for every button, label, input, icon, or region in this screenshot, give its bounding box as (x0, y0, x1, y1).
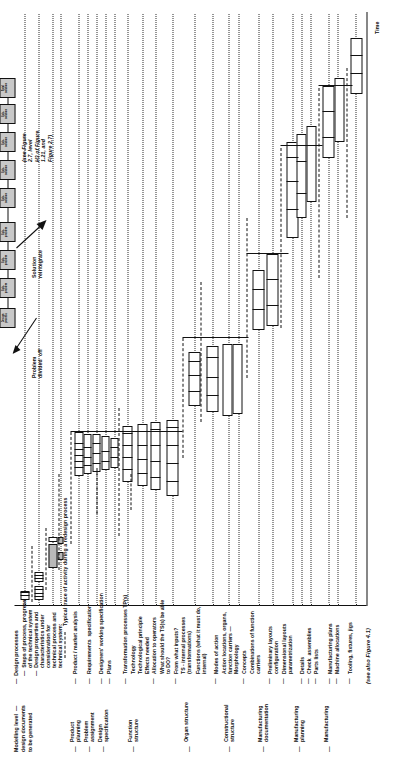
header-col2-line5: characteristics under (38, 614, 44, 668)
doc-plans: Plans (105, 660, 111, 674)
row-tick (101, 461, 109, 462)
row-guide (355, 14, 356, 606)
row-guide (142, 14, 143, 606)
activity-bar (334, 78, 344, 142)
level-dash: — (226, 746, 232, 752)
doc-manufacturing-plans: Manufacturing plans (326, 623, 332, 674)
row-tick (350, 55, 362, 56)
activity-trace (182, 338, 183, 458)
row-tick (122, 433, 132, 434)
activity-bar (48, 537, 57, 542)
doc-dash: — (72, 678, 78, 684)
row-tick (34, 589, 43, 590)
row-tick (74, 467, 83, 468)
time-axis (366, 12, 367, 606)
doc-product-market-analysis: Product / market analysis (71, 611, 77, 674)
legend-label: Typical trace of activity during a redes… (61, 498, 67, 626)
activity-trace (200, 282, 201, 422)
tree-node: Design process (0, 308, 15, 328)
row-tick (150, 429, 160, 430)
doc-modes-of-action: Modes of action (212, 635, 218, 674)
level-dash: — (100, 746, 106, 752)
cluster-connector (246, 253, 288, 254)
activity-bar (83, 434, 91, 474)
level-name-product-planning: Product planning (68, 720, 80, 742)
doc-tooling-fixtures-jigs: Tooling, fixtures, jigs (346, 622, 352, 674)
level-name-function-structure: Function structure (126, 719, 138, 742)
activity-trace (318, 88, 319, 278)
doc-dash: — (346, 678, 352, 684)
row-tick (166, 481, 178, 482)
doc-allocation-to-operators: Allocation to operators (150, 617, 156, 674)
activity-bar (322, 86, 334, 158)
cluster-connector (318, 85, 352, 86)
doc-dash: — (172, 678, 178, 684)
row-tick (322, 111, 334, 112)
doc-action-locations-organs: Action locations, organs, function carri… (220, 612, 238, 674)
doc-dash: — (86, 678, 92, 684)
activity-trace (45, 528, 46, 590)
row-tick (286, 209, 298, 210)
row-tick (252, 289, 264, 290)
row-guide (24, 14, 25, 606)
doc-technology: Technology (129, 645, 135, 674)
tree-node: Sub- problem (0, 222, 15, 242)
header-col1-line2: design documents (19, 705, 25, 752)
row-tick (206, 395, 218, 396)
row-tick (34, 593, 43, 594)
level-name-design-specification: Design specification (96, 710, 108, 742)
doc-combinations-of-function-carriers: Combinations of function carriers (248, 611, 260, 674)
activity-trace (96, 468, 97, 514)
activity-trace (280, 148, 281, 328)
level-dash: — (260, 746, 266, 752)
doc-dash: — (326, 678, 332, 684)
row-tick (350, 73, 362, 74)
row-guide (301, 14, 302, 606)
row-tick (206, 357, 218, 358)
row-tick (166, 463, 178, 464)
tree-node: Sub- solution (0, 188, 15, 208)
tree-node: Sub- solution (0, 104, 15, 124)
row-tick (137, 459, 147, 460)
doc-machine-allocations: Machine allocations (333, 625, 339, 674)
row-tick (110, 447, 118, 448)
tree-node: Sub- solution (0, 160, 15, 180)
activity-bar (137, 424, 147, 486)
tree-node: Sub- problem (0, 278, 15, 298)
row-guide (78, 14, 79, 606)
level-name-constructional-structure: Constructional structure (222, 705, 234, 742)
row-tick (188, 361, 200, 362)
doc-preliminary-layouts: Preliminary layouts configuration (266, 626, 278, 674)
header-col2-line4: — Design properties and (32, 612, 38, 676)
row-tick (34, 575, 43, 576)
header-col2-line6: consideration for (44, 625, 50, 668)
activity-bar (266, 254, 278, 326)
row-tick (83, 457, 91, 458)
row-guide (238, 14, 239, 606)
row-guide (38, 14, 39, 606)
figure-page: Time Typical trace of activity during a … (0, 0, 405, 758)
cluster-connector (280, 145, 322, 146)
header-col1-line3: to be generated (26, 713, 32, 752)
row-tick (252, 309, 264, 310)
doc-details: Details (298, 657, 304, 674)
rotated-figure: Time Typical trace of activity during a … (0, 0, 405, 758)
doc-transformation-processes: Transformation processes TP(s) (121, 595, 127, 674)
level-name-problem-assignment: Problem assignment (82, 713, 94, 742)
row-tick (122, 445, 132, 446)
activity-bar (101, 436, 109, 470)
activity-trace (346, 68, 347, 218)
doc-from-what-inputs: From what inputs? (172, 628, 178, 674)
activity-bar (74, 432, 83, 476)
row-tick (74, 443, 83, 444)
row-guide (310, 14, 311, 606)
activity-trace (58, 474, 59, 570)
doc-effects-needed: Effects needed (143, 637, 149, 674)
doc-designers-working-specification: Designers' working specification (97, 593, 103, 674)
row-tick (166, 427, 178, 428)
row-tick (122, 469, 132, 470)
row-tick (166, 445, 178, 446)
activity-bar (206, 346, 218, 412)
row-tick (150, 445, 160, 446)
cluster-connector (70, 431, 182, 432)
